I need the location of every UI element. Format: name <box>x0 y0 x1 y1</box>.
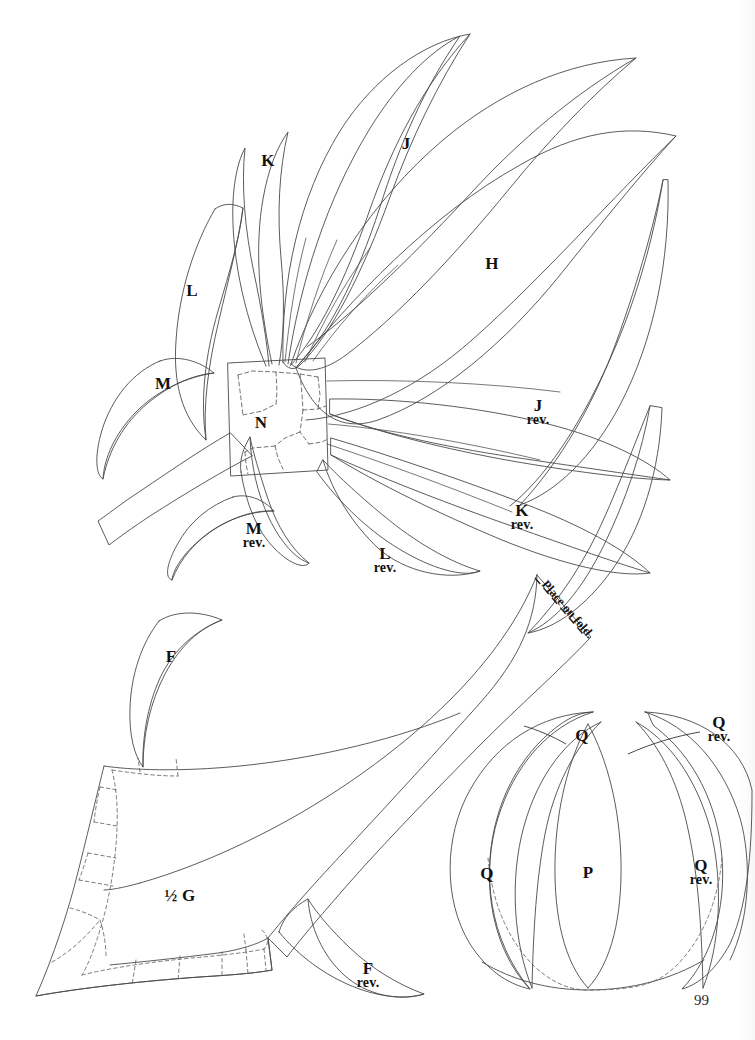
piece-label-krev: Krev. <box>511 502 534 533</box>
piece-half-G-bottom <box>36 970 272 996</box>
ball-dashed-marks <box>488 858 722 990</box>
piece-half-G-outline <box>36 766 272 996</box>
piece-label-qrevtop: Qrev. <box>708 714 731 745</box>
piece-half-G-right-edge <box>268 938 272 970</box>
piece-label-sub: rev. <box>243 536 266 550</box>
piece-label-j: J <box>402 135 411 152</box>
top-fan-spokes <box>285 238 398 363</box>
piece-label-k: K <box>261 152 274 169</box>
piece-label-sub: rev. <box>690 873 713 887</box>
piece-K-inner-curve <box>290 34 470 366</box>
piece-body-left-end2 <box>104 713 460 770</box>
piece-label-sub: rev. <box>357 976 380 990</box>
piece-N-square-outline <box>228 358 328 476</box>
piece-half-G-dashed-marks <box>52 758 268 985</box>
piece-F-rev-outline <box>279 899 424 997</box>
piece-P-left-edge <box>555 724 588 988</box>
piece-body-left-end <box>104 883 140 890</box>
piece-half-G-group <box>36 758 272 996</box>
piece-L-rev-inner <box>323 460 480 575</box>
piece-sliver-KJ <box>288 36 460 366</box>
piece-F-rev-group <box>279 899 424 997</box>
piece-Q-left-inner <box>515 722 601 988</box>
piece-label-qtop: Q <box>575 727 588 744</box>
piece-J-rev-inner <box>330 414 670 480</box>
piece-label-main: M <box>155 375 171 392</box>
piece-label-mrev: Mrev. <box>243 520 266 551</box>
piece-label-l: L <box>186 282 198 299</box>
piece-label-sub: rev. <box>527 413 550 427</box>
piece-label-main: K <box>261 152 274 169</box>
piece-label-main: P <box>583 864 594 881</box>
piece-label-qrevright: Qrev. <box>690 857 713 888</box>
piece-J-rev-outline <box>330 399 670 480</box>
piece-label-m: M <box>155 375 171 392</box>
ball-piece-group <box>450 712 752 990</box>
piece-H-inner-curve <box>306 136 676 420</box>
piece-J-inner-curve <box>307 58 636 347</box>
piece-label-main: J <box>402 135 411 152</box>
piece-right-outer-2 <box>510 180 663 506</box>
piece-strap-band <box>98 433 252 545</box>
piece-F-group <box>130 613 222 767</box>
piece-label-h: H <box>485 255 498 272</box>
piece-F-inner <box>143 620 222 767</box>
piece-L-outline <box>175 204 243 440</box>
piece-label-sub: rev. <box>511 518 534 532</box>
piece-label-main: N <box>255 414 267 431</box>
piece-label-main: Q <box>575 727 588 744</box>
piece-label-f: F <box>166 648 177 665</box>
piece-Q-rev-inner <box>636 722 703 988</box>
piece-sliver-LK2 <box>233 148 269 366</box>
piece-label-main: L <box>186 282 198 299</box>
piece-body-inner-edge <box>140 575 537 883</box>
piece-label-p: P <box>583 864 594 881</box>
page-number: 99 <box>694 992 709 1009</box>
piece-label-main: ½ G <box>165 887 196 904</box>
piece-body-swoosh <box>268 575 591 957</box>
piece-label-main: F <box>166 648 177 665</box>
ball-bottom-curve <box>482 960 704 990</box>
piece-J-outline <box>291 58 636 370</box>
piece-label-n: N <box>255 414 267 431</box>
piece-right-outer-4 <box>528 406 650 633</box>
piece-label-sub: rev. <box>374 561 397 575</box>
piece-label-halfg: ½ G <box>165 887 196 904</box>
piece-label-qleft: Q <box>480 865 493 882</box>
piece-label-main: H <box>485 255 498 272</box>
pattern-line-art: .sl { fill:none; stroke:#4a4a4a; stroke-… <box>0 0 755 1040</box>
piece-P-right-edge <box>588 724 621 988</box>
piece-Q-left-outer-inner <box>490 712 593 989</box>
piece-label-lrev: Lrev. <box>374 545 397 576</box>
piece-label-jrev: Jrev. <box>527 397 550 428</box>
piece-right-outer-1 <box>520 180 668 505</box>
piece-K-outline <box>283 34 470 369</box>
piece-label-sub: rev. <box>708 730 731 744</box>
piece-label-frev: Frev. <box>357 960 380 991</box>
piece-Q-left-inner2 <box>532 722 601 988</box>
pattern-page: .sl { fill:none; stroke:#4a4a4a; stroke-… <box>0 0 755 1040</box>
piece-L-rev-outline <box>317 460 480 573</box>
piece-label-main: Q <box>480 865 493 882</box>
